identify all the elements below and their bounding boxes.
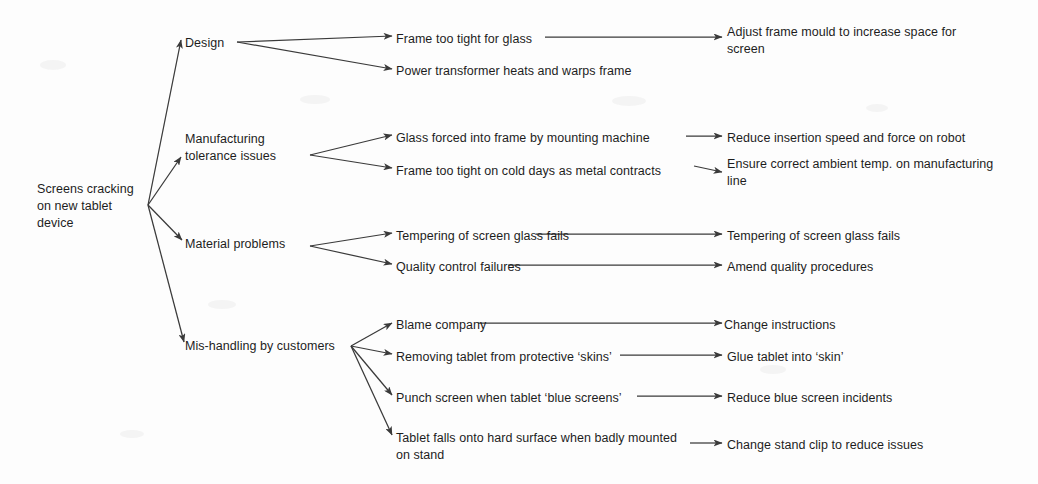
edge-cause-4-to-action-3 bbox=[694, 166, 722, 172]
category-mis-handling-by-customers: Mis-handling by customers bbox=[185, 338, 335, 355]
edge-manufacturing-to-cause-1 bbox=[310, 135, 392, 155]
cause-quality-control-failures: Quality control failures bbox=[396, 259, 521, 276]
paper-speckle bbox=[120, 430, 144, 438]
cause-tempering-fails: Tempering of screen glass fails bbox=[396, 228, 569, 245]
action-amend-quality-procedures: Amend quality procedures bbox=[727, 259, 873, 276]
cause-blame-company: Blame company bbox=[396, 317, 486, 334]
cause-tablet-falls-onto-hard-surface: Tablet falls onto hard surface when badl… bbox=[396, 430, 677, 464]
edge-design-to-cause-1 bbox=[237, 36, 392, 42]
category-design: Design bbox=[185, 35, 224, 52]
edge-material-to-cause-2 bbox=[310, 246, 392, 264]
action-change-stand-clip: Change stand clip to reduce issues bbox=[727, 437, 923, 454]
cause-removing-tablet-from-skins: Removing tablet from protective ‘skins’ bbox=[396, 349, 612, 366]
action-adjust-frame-mould: Adjust frame mould to increase space for… bbox=[727, 24, 956, 58]
edge-manufacturing-to-cause-2 bbox=[310, 155, 392, 168]
category-material-problems: Material problems bbox=[185, 236, 285, 253]
paper-speckle bbox=[300, 95, 330, 104]
cause-power-transformer-heats-frame: Power transformer heats and warps frame bbox=[396, 63, 631, 80]
paper-speckle bbox=[40, 60, 66, 70]
action-reduce-insertion-speed: Reduce insertion speed and force on robo… bbox=[727, 130, 965, 147]
root-cause-diagram: Screens cracking on new tablet device De… bbox=[0, 0, 1038, 484]
cause-frame-too-tight-for-glass: Frame too tight for glass bbox=[396, 31, 532, 48]
edge-mishandling-to-cause-4 bbox=[351, 346, 392, 435]
paper-speckle bbox=[866, 104, 888, 112]
cause-frame-tight-cold-days: Frame too tight on cold days as metal co… bbox=[396, 163, 661, 180]
edge-material-to-cause-1 bbox=[310, 233, 392, 246]
action-reduce-blue-screen-incidents: Reduce blue screen incidents bbox=[727, 390, 892, 407]
action-tempering-of-screen-glass-fails: Tempering of screen glass fails bbox=[727, 228, 900, 245]
edge-design-to-cause-2 bbox=[237, 42, 392, 69]
action-glue-tablet-into-skin: Glue tablet into ‘skin’ bbox=[727, 349, 844, 366]
edge-mishandling-to-cause-1 bbox=[351, 323, 392, 346]
paper-speckle bbox=[208, 300, 236, 309]
action-ensure-correct-ambient-temp: Ensure correct ambient temp. on manufact… bbox=[727, 156, 993, 190]
edge-root-to-mishandling bbox=[148, 205, 184, 342]
paper-speckle bbox=[760, 365, 786, 374]
root-cause-label: Screens cracking on new tablet device bbox=[37, 181, 134, 232]
paper-speckle bbox=[612, 96, 646, 106]
category-manufacturing-tolerance-issues: Manufacturing tolerance issues bbox=[185, 131, 276, 165]
cause-punch-screen-blue-screens: Punch screen when tablet ‘blue screens’ bbox=[396, 390, 622, 407]
action-change-instructions: Change instructions bbox=[724, 317, 835, 334]
cause-glass-forced-into-frame: Glass forced into frame by mounting mach… bbox=[396, 130, 650, 147]
